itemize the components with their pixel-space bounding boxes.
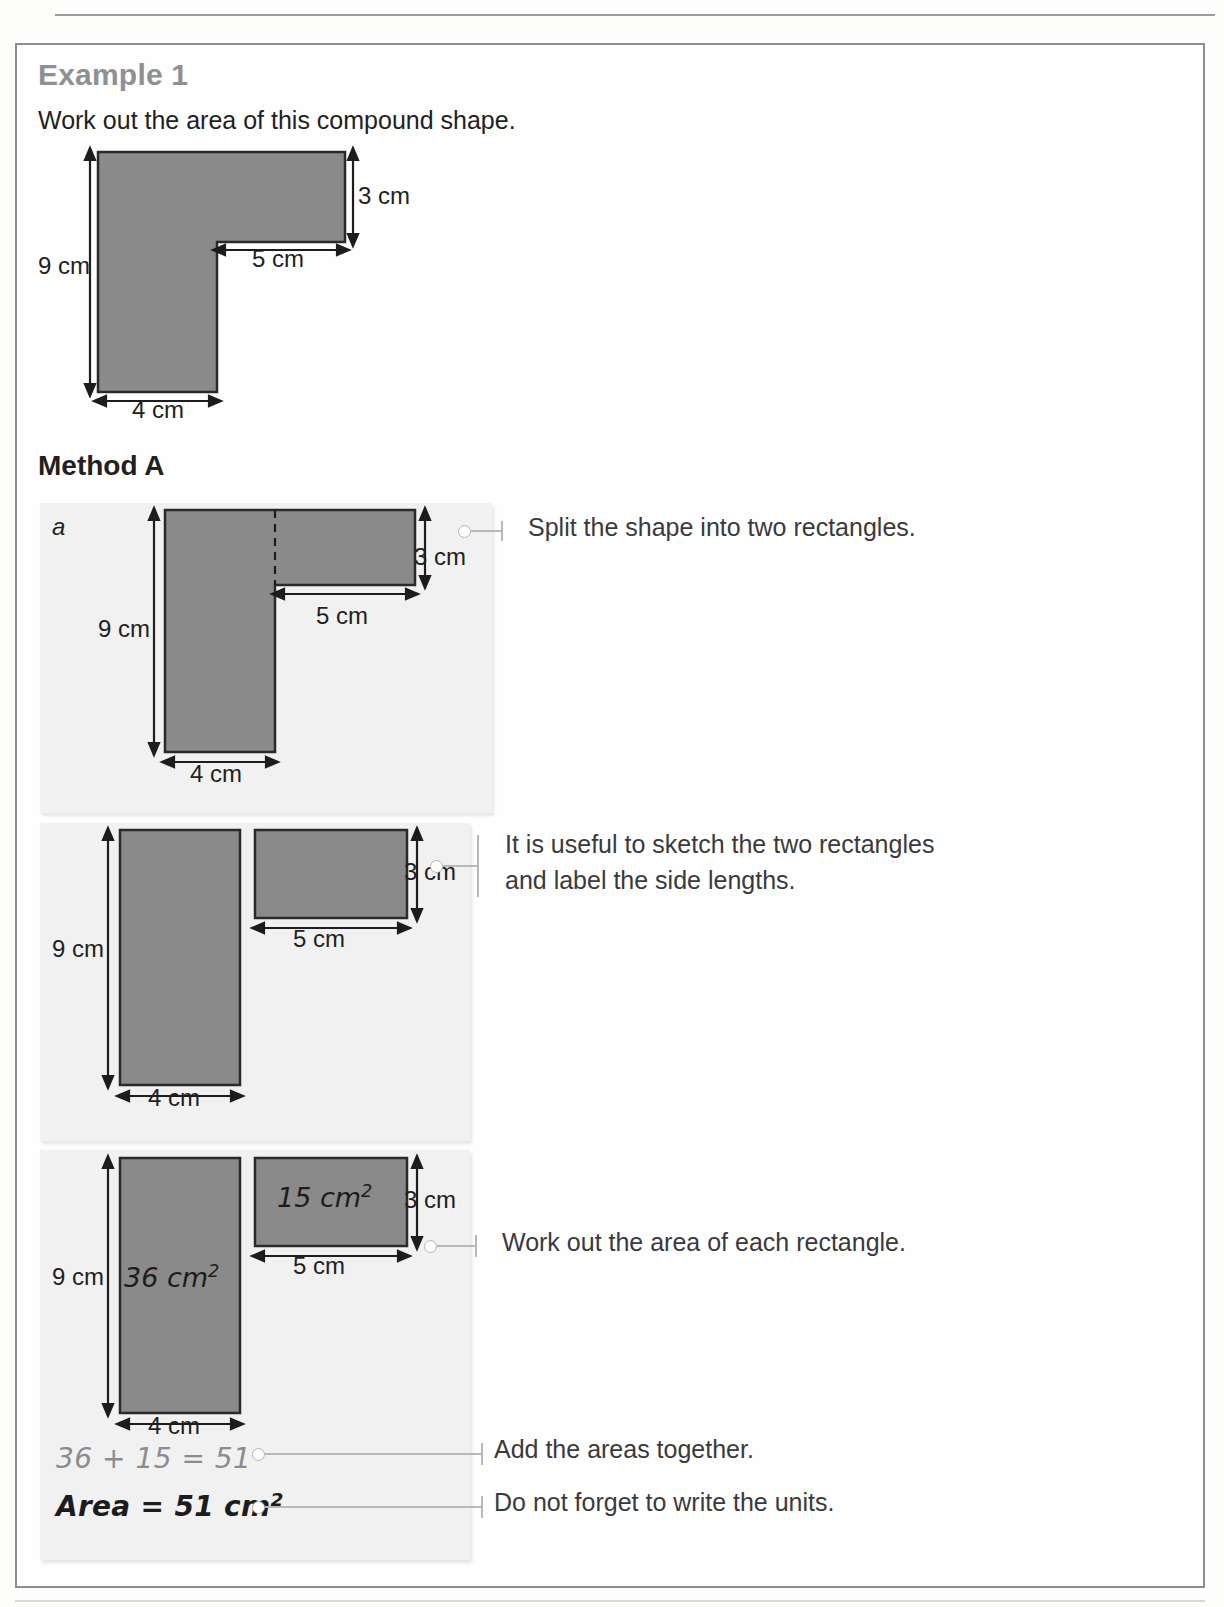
panel-3-label-4cm: 4 cm [148,1412,200,1440]
rectangle-wide [255,830,407,918]
callout-tick-icon [481,1443,483,1465]
note-work-out-area: Work out the area of each rectangle. [502,1225,1142,1261]
panel-2-label-4cm: 4 cm [148,1084,200,1112]
callout-dot-icon [424,1240,437,1253]
panel-1-label-9cm: 9 cm [98,615,150,643]
area-label-wide-rectangle: 15 cm2 [277,1180,372,1213]
callout-line-icon [265,1453,481,1455]
area-label-tall-rectangle: 36 cm2 [124,1260,219,1293]
panel-2-label-9cm: 9 cm [52,935,104,963]
bottom-divider-rule [15,1600,1205,1602]
working-sum-line: 36 + 15 = 51 [56,1442,251,1475]
figure-label-4cm: 4 cm [132,396,184,424]
figure-label-9cm: 9 cm [38,252,90,280]
note-write-units: Do not forget to write the units. [494,1485,1134,1521]
top-divider-rule [55,14,1215,16]
callout-tick-icon [501,521,503,541]
section-heading-method-a: Method A [38,450,165,482]
dimension-arrow-9cm [103,1156,113,1416]
rectangle-tall [120,830,240,1085]
callout-tick-icon [481,1496,483,1518]
callout-line-icon [443,865,477,867]
panel-3-label-3cm: 3 cm [404,1186,456,1214]
dimension-arrow-9cm [149,508,159,755]
working-result-line: Area = 51 cm2 [56,1489,284,1523]
compound-shape-svg [80,140,500,430]
l-shape-polygon [98,152,345,392]
panel-1-label-5cm: 5 cm [316,602,368,630]
figure-label-3cm: 3 cm [358,182,410,210]
dimension-arrow-3cm [348,148,358,246]
panel-3-label-9cm: 9 cm [52,1263,104,1291]
l-shape-polygon-split [165,510,415,752]
callout-connector-2 [430,835,492,897]
callout-tick-icon [477,835,479,897]
callout-tick-icon [475,1235,477,1257]
panel-1-label-4cm: 4 cm [190,760,242,788]
note-add-areas: Add the areas together. [494,1432,1134,1468]
callout-connector-5 [252,1496,483,1518]
panel-1-shape-svg [140,500,540,790]
callout-connector-3 [424,1235,490,1257]
panel-3-label-5cm: 5 cm [293,1252,345,1280]
note-split-shape: Split the shape into two rectangles. [528,510,1148,546]
callout-dot-icon [430,860,443,873]
part-label-a: a [52,513,65,541]
callout-line-icon [437,1245,475,1247]
callout-connector-1 [458,521,518,541]
question-prompt: Work out the area of this compound shape… [38,106,516,135]
callout-dot-icon [458,525,471,538]
callout-line-icon [265,1506,481,1508]
worksheet-page: Example 1 Work out the area of this comp… [0,0,1224,1607]
dimension-arrow-5cm [272,589,418,599]
page-title: Example 1 [38,58,188,92]
note-sketch-rectangles: It is useful to sketch the two rectangle… [505,827,1145,898]
callout-connector-4 [252,1443,483,1465]
callout-dot-icon [252,1448,265,1461]
callout-dot-icon [252,1501,265,1514]
panel-2-label-5cm: 5 cm [293,925,345,953]
dimension-arrow-9cm [103,828,113,1088]
figure-label-5cm: 5 cm [252,245,304,273]
panel-1-label-3cm: 3 cm [414,543,466,571]
callout-line-icon [471,530,501,532]
